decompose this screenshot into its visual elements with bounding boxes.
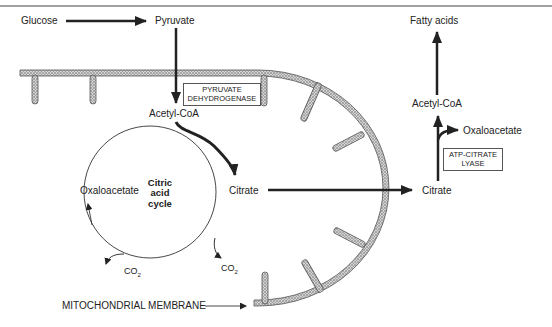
label-acetyl-coa-mito: Acetyl-CoA	[149, 109, 199, 119]
fatty-acid-synthesis-diagram: Glucose Pyruvate Acetyl-CoA PYRUVATE DEH…	[0, 0, 552, 327]
arrow-acetylcoa-to-citrate	[176, 122, 235, 175]
label-citrate-cyto: Citrate	[422, 186, 451, 196]
label-acetyl-coa-cyto: Acetyl-CoA	[412, 99, 462, 109]
arrow-co2-right	[214, 238, 221, 258]
label-citric-acid-cycle: Citric acid cycle	[140, 178, 180, 209]
cycle-line3: cycle	[140, 199, 180, 209]
label-oxaloacetate-cyto: Oxaloacetate	[463, 126, 522, 136]
label-citrate-mito: Citrate	[229, 186, 258, 196]
label-pyruvate: Pyruvate	[155, 16, 194, 26]
arrow-co2-left	[106, 254, 124, 264]
arrow-to-oxaloacetate	[88, 204, 92, 225]
enzyme-pdh-line2: DEHYDROGENASE	[187, 95, 257, 104]
enzyme-pyruvate-dehydrogenase: PYRUVATE DEHYDROGENASE	[183, 83, 261, 106]
label-fatty-acids: Fatty acids	[410, 16, 458, 26]
label-oxaloacetate-mito: Oxaloacetate	[80, 186, 139, 196]
label-co2-left: CO2	[124, 267, 141, 278]
enzyme-acl-line2: LYASE	[447, 160, 499, 169]
enzyme-atp-citrate-lyase: ATP-CITRATE LYASE	[443, 148, 503, 171]
arrow-to-oxaloacetate-cyto	[438, 130, 458, 140]
label-glucose: Glucose	[21, 16, 58, 26]
label-co2-right: CO2	[221, 264, 238, 275]
label-mitochondrial-membrane: MITOCHONDRIAL MEMBRANE	[62, 301, 206, 311]
